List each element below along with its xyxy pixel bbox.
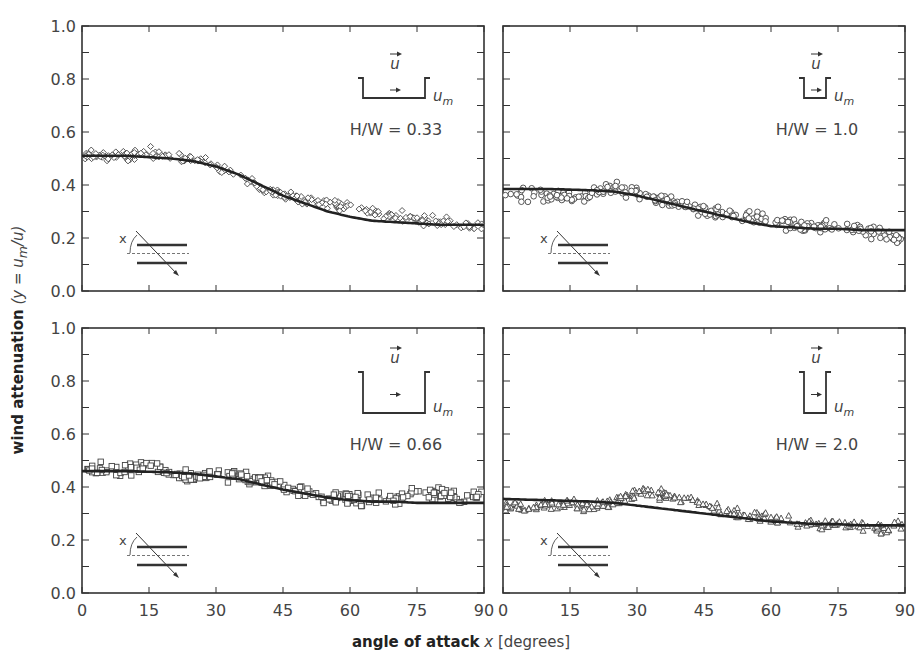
canyon-speed-symbol: um [433,87,453,108]
x-tick-label: 30 [206,601,226,620]
aspect-ratio-label: H/W = 0.66 [350,435,442,454]
canyon-icon: uum [358,346,453,420]
y-tick-label: 0.6 [51,123,76,142]
wind-speed-symbol: u [390,55,400,73]
x-tick-label: 75 [407,601,427,620]
panel-bottom-left: 0.00.20.40.60.81.00153045607590uumH/W = … [51,319,495,620]
x-tick-label: 15 [139,601,159,620]
x-axis-label-unit: [degrees] [498,633,570,651]
panel-top-left: 0.00.20.40.60.81.0uumH/W = 0.33x [51,17,485,301]
y-tick-label: 0.0 [51,282,76,301]
canyon-speed-symbol: um [834,87,854,108]
y-tick-label: 0.8 [51,372,76,391]
wind-speed-symbol: u [811,55,821,73]
y-tick-label: 0.4 [51,478,76,497]
x-tick-label: 30 [627,601,647,620]
plot-frame [82,26,484,291]
canyon-speed-symbol: um [834,398,854,419]
y-axis-label-math: (y = um/u) [9,226,27,305]
x-tick-label: 45 [694,601,714,620]
x-tick-label: 45 [273,601,293,620]
angle-of-attack-inset-icon: x [540,231,610,276]
scatter-series [85,459,484,509]
y-tick-label: 0.6 [51,425,76,444]
canyon-icon: uum [799,52,854,109]
plot-frame [503,26,905,291]
y-axis-label-bold: wind attenuation [9,309,27,454]
y-tick-label: 0.2 [51,229,76,248]
panel-bottom-right: 0153045607590uumH/W = 2.0x [498,328,915,620]
svg-text:x: x [119,533,127,548]
y-axis-label: wind attenuation (y = um/u) [4,175,34,505]
x-tick-label: 75 [828,601,848,620]
x-axis-label-bold: angle of attack [352,633,480,651]
x-tick-label: 0 [77,601,87,620]
wind-speed-symbol: u [811,349,821,367]
aspect-ratio-label: H/W = 0.33 [350,120,442,139]
svg-text:x: x [119,231,127,246]
svg-text:x: x [540,231,548,246]
panel-top-right: uumH/W = 1.0x [503,26,905,291]
x-tick-label: 60 [340,601,360,620]
y-tick-label: 0.2 [51,531,76,550]
aspect-ratio-label: H/W = 2.0 [776,435,858,454]
canyon-speed-symbol: um [433,398,453,419]
scatter-series [503,485,905,536]
canyon-icon: uum [799,346,854,420]
y-tick-label: 0.0 [51,584,76,603]
svg-text:x: x [540,533,548,548]
x-axis-label: angle of attack x [degrees] [0,633,922,651]
angle-of-attack-inset-icon: x [119,231,189,276]
angle-of-attack-inset-icon: x [540,533,610,578]
x-tick-label: 60 [761,601,781,620]
y-tick-label: 0.4 [51,176,76,195]
x-tick-label: 15 [560,601,580,620]
x-tick-label: 90 [474,601,494,620]
x-axis-label-var: x [484,633,493,651]
y-tick-label: 1.0 [51,319,76,338]
x-tick-label: 90 [895,601,915,620]
y-tick-label: 1.0 [51,17,76,36]
canyon-icon: uum [358,52,453,109]
y-tick-label: 0.8 [51,70,76,89]
angle-of-attack-inset-icon: x [119,533,189,578]
wind-speed-symbol: u [390,349,400,367]
plot-frame [503,328,905,593]
x-tick-label: 0 [498,601,508,620]
aspect-ratio-label: H/W = 1.0 [776,120,858,139]
figure-canvas: 0.00.20.40.60.81.0uumH/W = 0.33xuumH/W =… [0,0,922,666]
